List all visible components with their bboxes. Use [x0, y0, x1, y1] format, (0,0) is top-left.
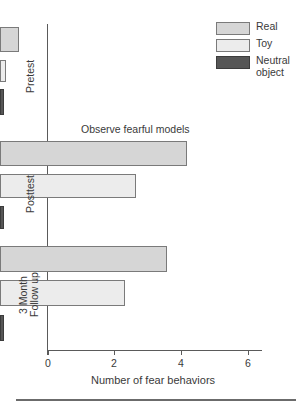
bar-posttest-neutral — [0, 206, 4, 229]
legend-label-real: Real — [256, 21, 278, 33]
legend-label-toy: Toy — [256, 38, 272, 50]
legend-swatch-toy-icon — [216, 39, 250, 52]
fear-behaviors-bar-chart: Observe fearful models Pretest Posttest … — [0, 0, 306, 413]
x-tick-label-0: 0 — [45, 357, 51, 369]
bar-pretest-toy — [0, 60, 6, 82]
legend-swatch-neutral-object-icon — [216, 56, 250, 69]
x-tick-label-4: 4 — [178, 357, 184, 369]
bottom-divider — [16, 399, 296, 401]
annotation-observe-fearful-models: Observe fearful models — [81, 123, 190, 135]
y-group-label-followup: 3 Month Follow up — [18, 249, 40, 341]
bar-pretest-real — [0, 27, 19, 52]
bar-followup-neutral — [0, 315, 4, 341]
bar-pretest-neutral — [0, 89, 4, 115]
legend-label-neutral-object: Neutral object — [256, 55, 290, 79]
y-group-label-pretest: Pretest — [25, 46, 36, 106]
x-tick-mark-2 — [114, 350, 115, 355]
legend-item-neutral-object: Neutral object — [216, 55, 290, 79]
x-axis-line — [47, 350, 262, 351]
x-tick-mark-6 — [248, 350, 249, 355]
legend-item-toy: Toy — [216, 38, 290, 52]
legend: Real Toy Neutral object — [216, 21, 290, 82]
x-tick-mark-4 — [181, 350, 182, 355]
x-tick-mark-0 — [47, 350, 48, 355]
legend-item-real: Real — [216, 21, 290, 35]
x-tick-label-6: 6 — [245, 357, 251, 369]
legend-swatch-real-icon — [216, 22, 250, 35]
x-tick-label-2: 2 — [111, 357, 117, 369]
x-axis-title: Number of fear behaviors — [0, 374, 306, 386]
bar-posttest-toy — [0, 174, 136, 198]
y-group-label-posttest: Posttest — [25, 160, 36, 228]
